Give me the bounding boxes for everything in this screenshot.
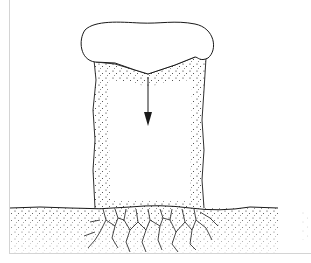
illustration: [0, 0, 311, 263]
stippled-ground: [10, 206, 308, 253]
stippled-column: [93, 57, 206, 208]
